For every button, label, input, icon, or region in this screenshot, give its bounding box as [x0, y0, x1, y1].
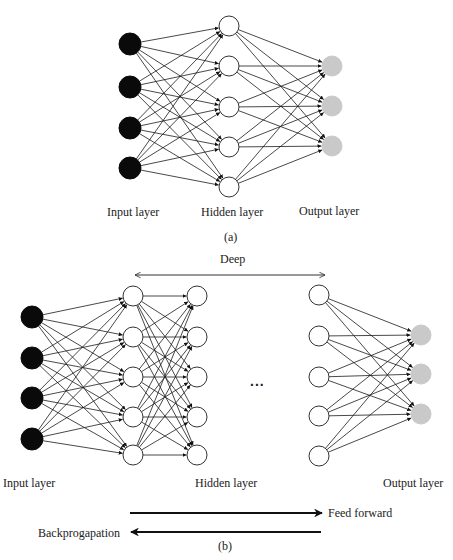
diagram-a-hidden-node — [219, 137, 239, 157]
diagram-b-hidden-node — [187, 445, 207, 465]
diagram-a-connection-edge — [136, 35, 223, 159]
diagram-b-connections — [38, 296, 414, 455]
diagram-b-hidden-node — [187, 407, 207, 427]
diagram-a-input-layer-label: Input layer — [107, 205, 159, 219]
diagram-a-caption: (a) — [224, 230, 237, 244]
diagram-b-output-node — [411, 364, 431, 384]
diagram-b-hidden-node — [309, 446, 329, 466]
diagram-b-connection-edge — [327, 381, 413, 450]
diagram-a-input-node — [119, 33, 141, 55]
diagram-b-hidden-node — [123, 407, 143, 427]
diagram-b-hidden-node — [309, 367, 329, 387]
diagram-b-connection-edge — [327, 301, 413, 367]
diagram-b-connection-edge — [43, 298, 123, 315]
diagram-b-hidden-node — [123, 327, 143, 347]
diagram-b-connection-edge — [40, 344, 126, 431]
diagram-a-connection-edge — [141, 170, 219, 185]
feed-forward-label: Feed forward — [328, 506, 392, 520]
diagram-b-hidden-node — [123, 286, 143, 306]
diagram-b-input-node — [21, 347, 43, 369]
diagram-a-hidden-node — [219, 16, 239, 36]
diagram-b-hidden-node — [187, 286, 207, 306]
diagram-b-connection-edge — [40, 366, 125, 448]
diagram-a-output-node — [322, 96, 342, 116]
diagram-a-connection-edge — [138, 52, 222, 139]
diagram-a-connection-edge — [138, 74, 222, 161]
deep-label: Deep — [220, 252, 245, 266]
ellipsis-more-layers: ... — [250, 373, 265, 389]
diagram-a: Input layer Hidden layer Output layer (a… — [107, 16, 359, 244]
diagram-b-hidden-node — [187, 367, 207, 387]
diagram-a-connection-edge — [141, 109, 219, 126]
diagram-a-hidden-layer-label: Hidden layer — [201, 205, 263, 219]
diagram-b-input-node — [21, 306, 43, 328]
diagram-a-hidden-node — [219, 177, 239, 197]
diagram-b-connection-edge — [40, 303, 126, 390]
diagram-a-output-node — [322, 56, 342, 76]
diagram-b-hidden-node — [309, 406, 329, 426]
diagram-b-hidden-node — [309, 326, 329, 346]
diagram-b-connection-edge — [38, 305, 127, 430]
diagram-b-connection-edge — [325, 343, 414, 448]
neural-network-figure: Input layer Hidden layer Output layer (a… — [0, 0, 453, 560]
diagram-b-input-node — [21, 387, 43, 409]
diagram-b-connection-edge — [329, 335, 411, 336]
diagram-a-input-node — [119, 117, 141, 139]
diagram-b-hidden-node — [309, 285, 329, 305]
diagram-a-connection-edge — [141, 149, 219, 166]
diagram-b-output-layer-label: Output layer — [383, 476, 443, 490]
diagram-a-hidden-node — [219, 56, 239, 76]
diagram-b-hidden-node — [123, 445, 143, 465]
diagram-b-input-layer-label: Input layer — [3, 476, 55, 490]
diagram-a-connection-edge — [238, 30, 322, 63]
diagram-b-hidden-node — [123, 367, 143, 387]
diagram-b-hidden-layer-label: Hidden layer — [195, 476, 257, 490]
diagram-b-input-node — [21, 428, 43, 450]
diagram-a-output-layer-label: Output layer — [299, 204, 359, 218]
diagram-a-input-node — [119, 76, 141, 98]
diagram-a-connection-edge — [138, 34, 222, 121]
diagram-b-hidden-node — [187, 327, 207, 347]
backpropagation-label: Backprogapation — [38, 526, 120, 540]
diagram-a-hidden-node — [219, 97, 239, 117]
diagram-b-caption: (b) — [218, 539, 232, 553]
diagram-b: Deep ... Input layer Hidden layer Output… — [3, 252, 443, 553]
diagram-a-connection-edge — [139, 50, 220, 101]
diagram-a-connection-edge — [238, 150, 322, 183]
diagram-b-connection-edge — [328, 378, 411, 412]
diagram-b-connection-edge — [328, 299, 411, 332]
diagram-a-output-node — [322, 136, 342, 156]
diagram-a-input-node — [119, 157, 141, 179]
diagram-a-connection-edge — [235, 74, 325, 179]
diagram-b-output-node — [411, 325, 431, 345]
diagram-b-output-node — [411, 404, 431, 424]
diagram-b-connection-edge — [328, 418, 411, 452]
